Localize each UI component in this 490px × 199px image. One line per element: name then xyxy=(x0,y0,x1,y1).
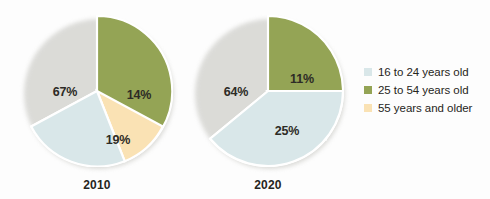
pie-2020-label-older: 11% xyxy=(290,72,314,86)
pie-2020-year-label: 2020 xyxy=(254,178,282,192)
pie-chart-2010: 67% 19% 14% 2010 xyxy=(21,15,177,199)
pie-2010-label-prime: 67% xyxy=(53,85,78,99)
pie-2020-label-young: 25% xyxy=(275,124,300,138)
legend-swatch-older-icon xyxy=(364,104,372,112)
legend-label-older: 55 years and older xyxy=(378,102,472,114)
legend-label-young: 16 to 24 years old xyxy=(378,66,469,78)
legend-swatch-young-icon xyxy=(364,68,372,76)
legend-swatch-prime-icon xyxy=(364,86,372,94)
legend: 16 to 24 years old 25 to 54 years old 55… xyxy=(364,64,488,118)
pie-2010-disc: 67% 19% 14% xyxy=(21,15,173,167)
pie-2010-year-label: 2010 xyxy=(83,178,111,192)
pie-chart-figure: 67% 19% 14% 2010 64% 25% 11% 2020 xyxy=(0,0,490,199)
legend-item-55-and-older[interactable]: 55 years and older xyxy=(364,100,488,116)
pie-2020-disc: 64% 25% 11% xyxy=(192,15,344,167)
legend-label-prime: 25 to 54 years old xyxy=(378,84,469,96)
legend-item-16-to-24[interactable]: 16 to 24 years old xyxy=(364,64,488,80)
pie-2020-svg xyxy=(192,15,344,167)
pie-2010-label-young: 19% xyxy=(106,133,131,147)
pie-2020-label-prime: 64% xyxy=(224,85,249,99)
pie-chart-2020: 64% 25% 11% 2020 xyxy=(192,15,348,199)
legend-item-25-to-54[interactable]: 25 to 54 years old xyxy=(364,82,488,98)
pie-2010-label-older: 14% xyxy=(127,88,152,102)
